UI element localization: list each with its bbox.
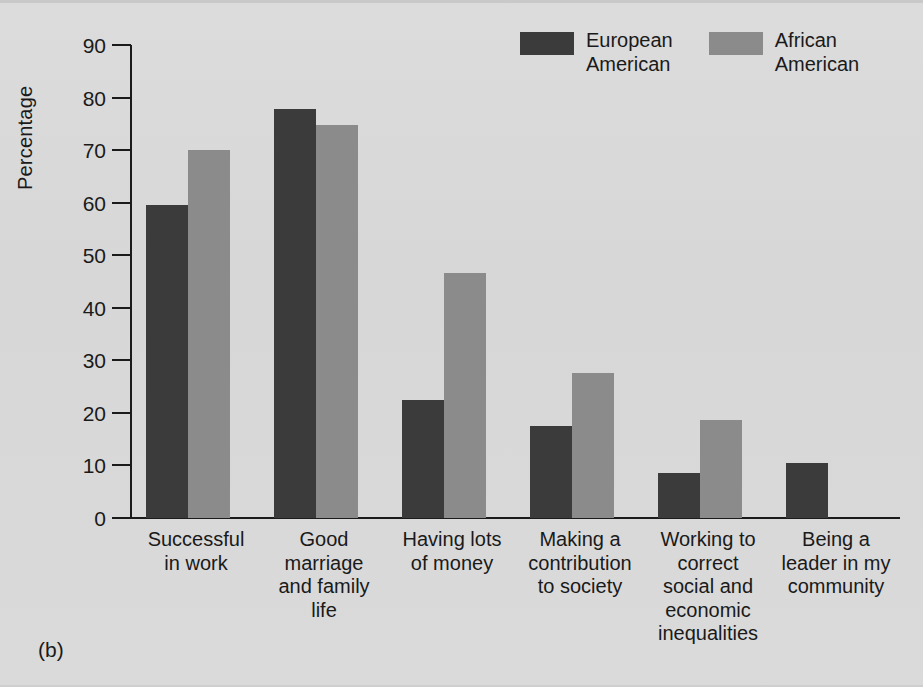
bar-group [388,45,516,518]
x-axis-label: Being a leader in my community [764,528,908,599]
y-axis-tick [112,97,131,99]
panel-label: (b) [38,638,64,662]
y-axis-label: Percentage [14,86,37,190]
y-axis-tick-label: 80 [66,88,106,109]
bar-group [516,45,644,518]
y-axis-tick-label: 70 [66,140,106,161]
figure-panel: Percentage 9080706050403020100 Successfu… [0,0,923,687]
y-axis-tick [112,149,131,151]
y-axis-tick-label: 30 [66,350,106,371]
bar-european-american [146,205,188,518]
y-axis-tick-label: 20 [66,403,106,424]
legend-item-african-american: African American [709,28,859,76]
x-axis-label: Working to correct social and economic i… [636,528,780,646]
bar-african-american [444,273,486,518]
y-axis-tick [112,44,131,46]
legend-label-european-american: European American [586,28,673,76]
legend-label-african-american: African American [775,28,859,76]
y-axis-tick [112,517,131,519]
legend-item-european-american: European American [520,28,673,76]
bar-european-american [402,400,444,518]
bar-african-american [188,150,230,518]
bar-group [644,45,772,518]
y-axis-tick [112,202,131,204]
y-axis-tick-label: 60 [66,193,106,214]
y-axis-tick-label: 0 [66,508,106,529]
bar-african-american [700,420,742,518]
legend-swatch-icon-european-american [520,32,574,55]
bar-group [132,45,260,518]
x-axis-labels: Successful in workGood marriage and fami… [132,528,900,678]
bar-african-american [572,373,614,518]
x-axis-label: Making a contribution to society [508,528,652,599]
y-axis-tick-label: 50 [66,245,106,266]
y-axis-tick [112,464,131,466]
bar-european-american [274,109,316,518]
y-axis-tick [112,254,131,256]
bar-european-american [786,463,828,518]
legend-swatch-icon-african-american [709,32,763,55]
y-axis-tick [112,412,131,414]
bar-group [772,45,900,518]
x-axis-label: Good marriage and family life [252,528,396,622]
bar-group [260,45,388,518]
y-axis-tick [112,307,131,309]
x-axis-label: Having lots of money [380,528,524,575]
bar-european-american [658,473,700,518]
x-axis-label: Successful in work [124,528,268,575]
bar-european-american [530,426,572,518]
bar-african-american [316,125,358,518]
plot-area [132,45,900,518]
y-axis-tick-label: 90 [66,35,106,56]
y-axis-tick-label: 40 [66,298,106,319]
y-axis-tick-label: 10 [66,455,106,476]
y-axis-tick [112,359,131,361]
legend: European American African American [520,28,859,76]
